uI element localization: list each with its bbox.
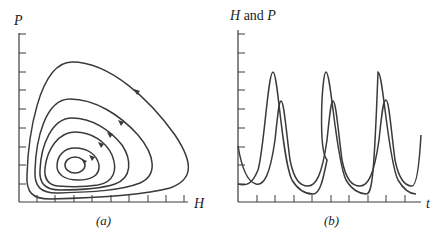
orbit-6-innermost [65, 157, 85, 173]
panel-b-time-series: H and P t (b) [229, 8, 431, 228]
figure: P H (a) [0, 0, 447, 235]
panel-a-caption: (a) [96, 213, 111, 228]
p-axis-label: P [13, 13, 23, 28]
y-axis-label: H and P [229, 8, 276, 23]
h-axis-label: H [193, 196, 205, 211]
panel-b-caption: (b) [324, 213, 339, 228]
t-axis-label: t [426, 196, 431, 211]
orbit-4 [45, 132, 115, 187]
arrow-icon [82, 159, 87, 164]
t-axis-ticks [257, 195, 405, 202]
panel-a-phase-plot: P H (a) [13, 13, 205, 228]
p-axis-ticks [19, 34, 26, 184]
orbit-5 [57, 148, 99, 180]
